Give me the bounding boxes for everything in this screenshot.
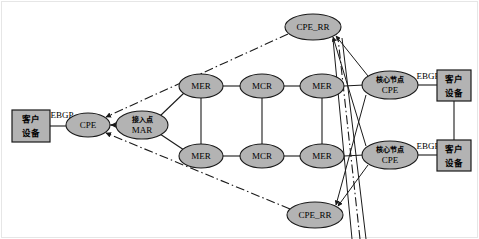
node-mer-bottom-right[interactable]: MER [300,144,344,168]
core-cpe-top-label-line2: CPE [382,85,399,95]
node-mcr-bottom[interactable]: MCR [240,144,284,168]
node-core-cpe-top[interactable]: 核心节点 CPE [362,71,418,99]
node-customer-right-top[interactable]: 客户 设备 [437,70,471,101]
customer-right-top-label-line1: 客户 [444,74,463,84]
customer-right-bottom-label-line1: 客户 [444,144,463,154]
node-mer-bottom-left[interactable]: MER [179,144,223,168]
core-cpe-top-label-line1: 核心节点 [376,75,404,84]
node-mcr-top[interactable]: MCR [240,74,284,98]
mer-bottom-left-label: MER [191,151,211,161]
node-cpe-left[interactable]: CPE [66,113,110,137]
mcr-top-label: MCR [252,81,272,91]
node-cpe-rr-top[interactable]: CPE_RR [285,14,341,40]
mar-label-line1: 接入点 [132,115,153,124]
network-topology-diagram: 客户 设备 EBGP CPE 接入点 MAR MER MCR MER [0,0,479,239]
cpe-rr-top-label: CPE_RR [296,22,329,32]
node-mer-top-left[interactable]: MER [179,74,223,98]
node-customer-left[interactable]: 客户 设备 [12,110,50,142]
topology-canvas: 客户 设备 EBGP CPE 接入点 MAR MER MCR MER [0,0,479,239]
edge-strand-up-b [342,38,366,239]
edge-merbr-corecpebottom [344,155,364,156]
mer-top-left-label: MER [191,81,211,91]
customer-right-bottom-label-line2: 设备 [445,158,463,168]
node-cpe-rr-bottom[interactable]: CPE_RR [287,202,343,228]
core-cpe-bottom-label-line2: CPE [382,155,399,165]
mer-top-right-label: MER [312,81,332,91]
ebgp-label-right-bottom: EBGP [416,141,439,151]
node-mer-top-right[interactable]: MER [300,74,344,98]
cpe-left-label: CPE [80,120,97,130]
customer-left-label-line1: 客户 [21,114,40,124]
customer-right-top-label-line2: 设备 [445,88,463,98]
edge-corecpetop-rrtop [336,36,368,76]
core-cpe-bottom-label-line1: 核心节点 [376,145,404,154]
ebgp-label-right-top: EBGP [416,71,439,81]
edge-mar-mertl [160,93,184,116]
node-mar[interactable]: 接入点 MAR [116,111,168,139]
customer-left-label-line2: 设备 [22,128,40,138]
edge-group [50,34,454,239]
mar-label-line2: MAR [132,125,153,135]
edge-mertr-corecpetop [344,85,364,86]
cpe-rr-bottom-label: CPE_RR [298,210,331,220]
node-customer-right-bottom[interactable]: 客户 设备 [437,140,471,171]
mer-bottom-right-label: MER [312,151,332,161]
node-core-cpe-bottom[interactable]: 核心节点 CPE [362,141,418,169]
mcr-bottom-label: MCR [252,151,272,161]
edge-mar-merbl [160,134,184,150]
